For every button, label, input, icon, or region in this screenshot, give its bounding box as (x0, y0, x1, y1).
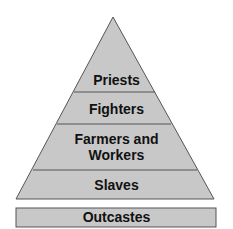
level-farmers-line2: Workers (0, 148, 233, 163)
level-farmers-line1: Farmers and (0, 132, 233, 147)
level-fighters: Fighters (0, 102, 233, 117)
level-priests: Priests (0, 73, 233, 88)
level-slaves: Slaves (0, 178, 233, 193)
level-outcastes: Outcastes (0, 210, 233, 225)
